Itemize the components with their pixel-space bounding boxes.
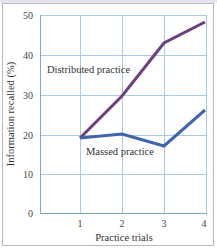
x-axis-label: Practice trials xyxy=(95,232,152,243)
svg-text:2: 2 xyxy=(120,218,125,229)
svg-text:4: 4 xyxy=(202,218,207,229)
svg-text:50: 50 xyxy=(23,10,33,21)
y-tick-labels: 50 40 30 20 10 0 xyxy=(23,10,33,219)
svg-text:3: 3 xyxy=(162,218,167,229)
svg-text:40: 40 xyxy=(23,50,33,61)
x-tick-labels: 1 2 3 4 xyxy=(78,218,207,229)
svg-text:30: 30 xyxy=(23,90,33,101)
line-chart: 50 40 30 20 10 0 1 2 3 4 Practice trials… xyxy=(0,0,217,249)
label-distributed-practice: Distributed practice xyxy=(47,64,130,75)
svg-text:20: 20 xyxy=(23,130,33,141)
svg-text:1: 1 xyxy=(78,218,83,229)
series-line-distributed xyxy=(80,22,205,138)
grid xyxy=(40,15,207,213)
y-axis-label: Information recalled (%) xyxy=(5,61,17,166)
axes xyxy=(40,15,207,214)
label-massed-practice: Massed practice xyxy=(86,146,154,157)
series-line-massed xyxy=(80,110,205,146)
svg-text:10: 10 xyxy=(23,169,33,180)
svg-text:0: 0 xyxy=(28,208,33,219)
